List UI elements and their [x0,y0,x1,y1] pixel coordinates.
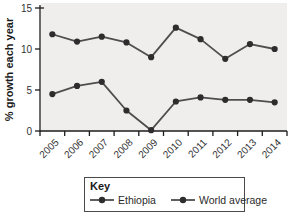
legend-title: Key [90,180,238,193]
plot-area [41,3,287,131]
growth-chart-figure: 0510152005200620072008200920102011201220… [0,0,289,217]
x-tick-label-2010: 2010 [161,136,185,160]
y-tick-label: 0 [26,126,32,137]
x-tick-label-2008: 2008 [111,136,135,160]
legend-item-ethiopia: Ethiopia [90,194,156,206]
growth-line-chart: 0510152005200620072008200920102011201220… [0,0,289,172]
world-average-point-2007 [99,79,105,85]
ethiopia-point-2013 [247,41,253,47]
legend-label-ethiopia: Ethiopia [118,194,156,206]
x-tick-label-2012: 2012 [210,136,234,160]
x-tick-label-2014: 2014 [260,136,284,160]
world-average-point-2005 [49,91,55,97]
world-average-point-2012 [222,97,228,103]
y-tick-labels: 051015 [21,3,33,137]
x-tick-label-2006: 2006 [62,136,86,160]
legend: Key Ethiopia World average [84,177,245,212]
ethiopia-point-2008 [123,39,129,45]
x-tick-label-2005: 2005 [37,136,61,160]
legend-label-world-average: World average [199,194,267,206]
world-average-point-2014 [272,99,278,105]
y-tick-label: 5 [26,85,32,96]
ethiopia-point-2012 [222,56,228,62]
x-tick-label-2007: 2007 [87,136,111,160]
world-average-point-2013 [247,97,253,103]
world-average-point-2009 [148,127,154,133]
x-tick-label-2011: 2011 [186,136,209,159]
ethiopia-point-2009 [148,54,154,60]
world-average-point-2010 [173,98,179,104]
legend-row: Ethiopia World average [90,194,238,206]
y-tick-label: 10 [21,44,33,55]
y-tick-label: 15 [21,3,33,14]
x-tick-label-2009: 2009 [136,136,160,160]
legend-item-world-average: World average [171,194,267,206]
world-average-point-2008 [123,107,129,113]
ethiopia-series-marker-icon [90,196,114,204]
world-average-point-2006 [74,83,80,89]
x-tick-labels: 2005200620072008200920102011201220132014 [37,136,283,160]
ethiopia-point-2014 [272,46,278,52]
y-axis-title: % growth each year [3,17,15,121]
world-average-series-marker-icon [171,196,195,204]
ethiopia-point-2006 [74,39,80,45]
ethiopia-point-2011 [197,36,203,42]
ethiopia-point-2005 [49,31,55,37]
x-tick-label-2013: 2013 [235,136,259,160]
world-average-point-2011 [197,94,203,100]
ethiopia-point-2010 [173,25,179,31]
ethiopia-point-2007 [99,34,105,40]
